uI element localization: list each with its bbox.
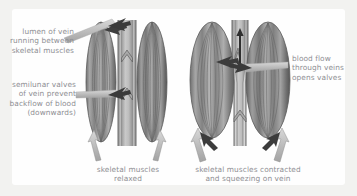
muscle-left-contracted — [190, 22, 234, 138]
caption-contracted: skeletal muscles contracted and squeezin… — [178, 165, 318, 184]
muscle-pump-figure: lumen of vein running between skeletal m… — [0, 0, 357, 196]
label-lumen-of-vein: lumen of vein running between skeletal m… — [6, 27, 74, 55]
vein-relaxed — [118, 20, 136, 146]
label-semilunar-valves: semilunar valves of vein prevent backflo… — [4, 80, 76, 118]
semilunar-pointer-arrow — [76, 90, 116, 98]
muscle-right-relaxed — [137, 22, 167, 142]
panel-relaxed-artwork — [86, 20, 167, 161]
muscle-left-relaxed — [86, 22, 116, 142]
label-blood-flow: blood flow through veins opens valves — [292, 54, 354, 82]
panel-contracted-artwork — [190, 20, 290, 162]
caption-relaxed: skeletal muscles relaxed — [76, 165, 180, 184]
muscle-right-contracted — [246, 22, 290, 138]
